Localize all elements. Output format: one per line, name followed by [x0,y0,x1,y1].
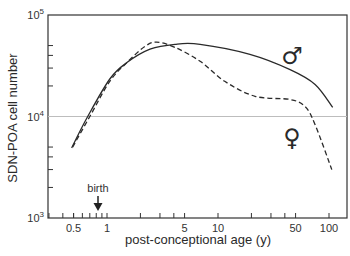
chart: 103104105 0.5151050100 post-conceptional… [0,0,350,256]
x-axis-ticks: 0.5151050100 [49,213,338,234]
x-axis-title: post-conceptional age (y) [125,232,271,247]
x-tick-label: 100 [320,222,338,234]
y-tick-label: 103 [27,210,44,224]
x-tick-label: 0.5 [66,222,81,234]
birth-arrow-icon [94,196,103,211]
x-tick-label: 1 [104,222,110,234]
y-tick-label: 105 [27,7,44,21]
birth-annotation: birth [87,182,108,194]
y-axis-title: SDN-POA cell number [5,53,20,183]
male-symbol-label: ♂ [281,42,303,70]
x-tick-label: 50 [289,222,301,234]
female-symbol-label: ♀ [283,124,301,152]
y-tick-label: 104 [27,109,44,123]
y-axis-ticks: 103104105 [27,7,53,224]
